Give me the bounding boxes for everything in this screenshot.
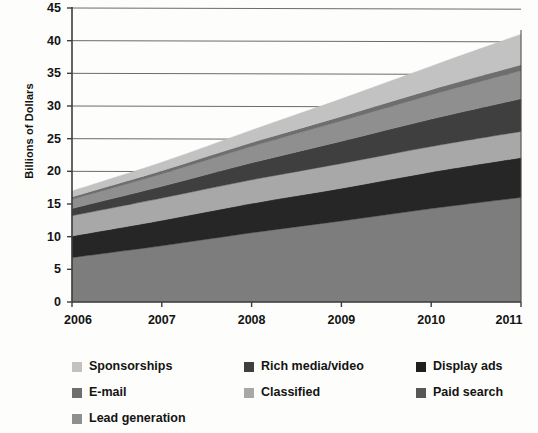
legend-item: Classified bbox=[244, 384, 320, 401]
legend-item: Display ads bbox=[416, 358, 502, 375]
legend-item: Lead generation bbox=[72, 410, 186, 427]
chart-legend: SponsorshipsRich media/videoDisplay adsE… bbox=[72, 358, 532, 430]
x-axis-tick-label: 2009 bbox=[313, 314, 369, 327]
x-axis-tick-label: 2008 bbox=[224, 314, 280, 327]
legend-item: Paid search bbox=[416, 384, 503, 401]
legend-swatch-icon bbox=[416, 388, 426, 398]
x-axis-tick-label: 2010 bbox=[403, 314, 459, 327]
legend-swatch-icon bbox=[72, 414, 82, 424]
y-axis-tick-label: 35 bbox=[27, 67, 61, 80]
legend-label: Display ads bbox=[433, 360, 502, 373]
plot-area bbox=[0, 0, 538, 345]
y-axis-tick-label: 45 bbox=[27, 2, 61, 15]
legend-label: E-mail bbox=[89, 386, 127, 399]
y-axis-tick-label: 15 bbox=[27, 198, 61, 211]
legend-item: Rich media/video bbox=[244, 358, 364, 375]
y-axis-tick-label: 30 bbox=[27, 100, 61, 113]
y-axis-tick-label: 40 bbox=[27, 35, 61, 48]
x-axis-tick-label: 2007 bbox=[134, 314, 190, 327]
legend-label: Sponsorships bbox=[89, 360, 172, 373]
legend-label: Lead generation bbox=[89, 412, 186, 425]
x-axis-tick-label: 2006 bbox=[50, 314, 106, 327]
legend-swatch-icon bbox=[244, 362, 254, 372]
legend-swatch-icon bbox=[72, 362, 82, 372]
stacked-area-chart bbox=[0, 0, 538, 345]
legend-swatch-icon bbox=[72, 388, 82, 398]
legend-item: E-mail bbox=[72, 384, 127, 401]
legend-label: Classified bbox=[261, 386, 320, 399]
legend-swatch-icon bbox=[416, 362, 426, 372]
y-axis-tick-label: 25 bbox=[27, 133, 61, 146]
y-axis-tick-label: 0 bbox=[27, 296, 61, 309]
x-axis-tick-label: 2011 bbox=[481, 314, 537, 327]
legend-label: Rich media/video bbox=[261, 360, 364, 373]
y-axis-tick-label: 10 bbox=[27, 231, 61, 244]
legend-label: Paid search bbox=[433, 386, 503, 399]
chart-figure: Billions of Dollars 051015202530354045 2… bbox=[0, 0, 538, 433]
y-axis-tick-label: 5 bbox=[27, 263, 61, 276]
legend-swatch-icon bbox=[244, 388, 254, 398]
y-axis-tick-label: 20 bbox=[27, 165, 61, 178]
legend-item: Sponsorships bbox=[72, 358, 172, 375]
